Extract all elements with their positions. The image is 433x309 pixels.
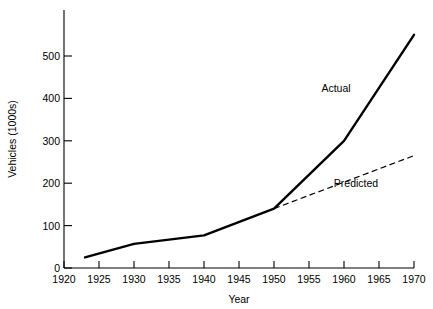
x-tick-label: 1955	[297, 273, 321, 285]
series-line-actual	[85, 35, 414, 258]
x-tick-label: 1960	[332, 273, 356, 285]
y-tick-label: 400	[42, 92, 60, 104]
y-tick-label: 500	[42, 50, 60, 62]
x-tick-label: 1950	[262, 273, 286, 285]
y-tick-label: 200	[42, 177, 60, 189]
y-axis-title: Vehicles (1000s)	[6, 100, 18, 178]
x-tick-label: 1920	[52, 273, 76, 285]
x-tick-label: 1925	[87, 273, 111, 285]
series-label-actual: Actual	[321, 82, 350, 94]
y-tick-label: 300	[42, 135, 60, 147]
chart-container: 0 100 200 300 400 500 1920 1925 1930	[0, 0, 433, 309]
y-axis-ticks	[64, 56, 72, 268]
y-axis-tick-labels: 0 100 200 300 400 500	[42, 50, 60, 274]
x-tick-label: 1965	[367, 273, 391, 285]
x-tick-label: 1970	[402, 273, 426, 285]
y-tick-label: 100	[42, 220, 60, 232]
x-tick-label: 1940	[192, 273, 216, 285]
x-tick-label: 1945	[227, 273, 251, 285]
x-axis-tick-labels: 1920 1925 1930 1935 1940 1945 1950 1955 …	[52, 273, 426, 285]
x-tick-label: 1935	[157, 273, 181, 285]
x-axis-ticks	[64, 261, 414, 268]
x-tick-label: 1930	[122, 273, 146, 285]
line-chart: 0 100 200 300 400 500 1920 1925 1930	[0, 0, 433, 309]
series-label-predicted: Predicted	[334, 177, 379, 189]
x-axis-title: Year	[228, 293, 250, 305]
